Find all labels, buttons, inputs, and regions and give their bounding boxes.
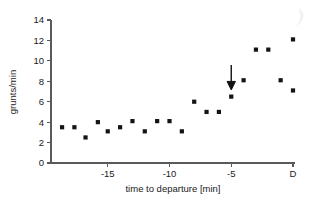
y-tick-label: 0 bbox=[39, 157, 44, 168]
y-axis-ticks bbox=[47, 20, 51, 163]
x-tick-label: D bbox=[290, 168, 297, 179]
data-point bbox=[229, 95, 233, 99]
data-point bbox=[96, 120, 100, 124]
scatter-plot-svg: 02468101214 -15-10-5D time to departure … bbox=[0, 0, 320, 200]
y-tick-label: 8 bbox=[39, 76, 44, 87]
data-point bbox=[217, 110, 221, 114]
data-point bbox=[242, 78, 246, 82]
data-point bbox=[143, 129, 147, 133]
y-tick-label: 4 bbox=[39, 117, 44, 128]
x-axis-tick-labels: -15-10-5D bbox=[101, 168, 297, 179]
x-tick-label: -5 bbox=[227, 168, 235, 179]
data-point bbox=[155, 119, 159, 123]
data-point bbox=[266, 48, 270, 52]
data-point bbox=[204, 110, 208, 114]
y-tick-label: 6 bbox=[39, 96, 44, 107]
annotation-arrow-down bbox=[227, 65, 235, 90]
axis-lines bbox=[51, 20, 295, 163]
data-point bbox=[291, 88, 295, 92]
data-point bbox=[254, 48, 258, 52]
arrow-head bbox=[227, 81, 235, 90]
y-axis-tick-labels: 02468101214 bbox=[33, 14, 44, 168]
data-point bbox=[167, 119, 171, 123]
x-tick-label: -15 bbox=[101, 168, 115, 179]
data-point bbox=[130, 119, 134, 123]
data-point bbox=[106, 129, 110, 133]
data-point bbox=[72, 125, 76, 129]
y-tick-label: 14 bbox=[33, 14, 44, 25]
data-point bbox=[192, 100, 196, 104]
chart-figure: 02468101214 -15-10-5D time to departure … bbox=[0, 0, 320, 200]
data-point bbox=[180, 129, 184, 133]
scan-artifact bbox=[296, 8, 304, 27]
y-tick-label: 2 bbox=[39, 137, 44, 148]
y-tick-label: 10 bbox=[33, 55, 44, 66]
y-tick-label: 12 bbox=[33, 35, 44, 46]
x-axis-title: time to departure [min] bbox=[125, 183, 220, 194]
x-tick-label: -10 bbox=[163, 168, 177, 179]
data-point bbox=[118, 125, 122, 129]
annotation-layer bbox=[227, 65, 235, 90]
data-point bbox=[83, 135, 87, 139]
x-axis-ticks bbox=[108, 163, 293, 167]
data-point bbox=[291, 37, 295, 41]
data-point-series bbox=[60, 37, 295, 139]
data-point bbox=[279, 78, 283, 82]
data-point bbox=[60, 125, 64, 129]
y-axis-title: grunts/min bbox=[7, 70, 18, 114]
